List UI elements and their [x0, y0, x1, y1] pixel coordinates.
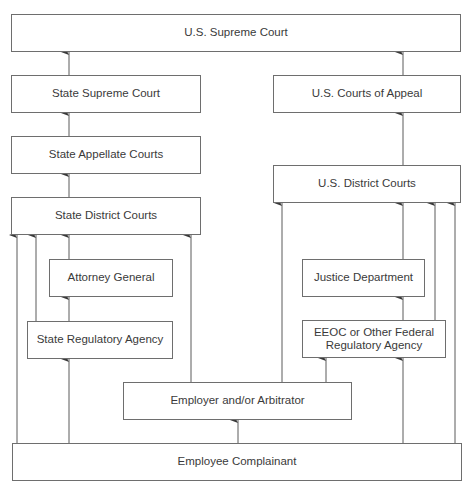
node-label: Employer and/or Arbitrator — [170, 394, 304, 407]
node-state-district-courts: State District Courts — [11, 197, 201, 235]
node-us-district-courts: U.S. District Courts — [273, 165, 461, 203]
node-label: EEOC or Other Federal Regulatory Agency — [314, 326, 434, 352]
node-attorney-general: Attorney General — [49, 259, 173, 297]
node-us-courts-of-appeal: U.S. Courts of Appeal — [273, 75, 461, 113]
node-employee-complainant: Employee Complainant — [12, 443, 462, 481]
node-label: Attorney General — [68, 271, 155, 284]
node-label: U.S. Courts of Appeal — [312, 87, 423, 100]
node-us-supreme-court: U.S. Supreme Court — [11, 14, 461, 52]
node-state-regulatory-agency: State Regulatory Agency — [27, 321, 173, 359]
node-label: State Regulatory Agency — [37, 333, 164, 346]
node-state-appellate-courts: State Appellate Courts — [11, 136, 201, 174]
node-label: State Supreme Court — [52, 87, 160, 100]
node-label: State District Courts — [55, 209, 157, 222]
node-label: U.S. Supreme Court — [184, 26, 288, 39]
node-label: Justice Department — [314, 271, 413, 284]
node-label: State Appellate Courts — [49, 148, 163, 161]
court-appeals-flowchart: U.S. Supreme Court State Supreme Court S… — [0, 0, 473, 498]
node-justice-department: Justice Department — [302, 259, 425, 297]
node-state-supreme-court: State Supreme Court — [11, 75, 201, 113]
node-label: Employee Complainant — [178, 455, 297, 468]
node-employer-arbitrator: Employer and/or Arbitrator — [123, 382, 352, 420]
node-label: U.S. District Courts — [318, 177, 416, 190]
node-eeoc: EEOC or Other Federal Regulatory Agency — [302, 320, 446, 358]
